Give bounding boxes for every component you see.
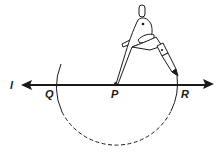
arc-solid-right <box>171 76 177 111</box>
arc-solid-left <box>57 64 62 112</box>
label-p: P <box>111 88 119 100</box>
label-r: R <box>181 88 189 100</box>
construction-diagram: l Q P R <box>0 0 220 155</box>
circle-arc <box>57 64 178 145</box>
label-line-l: l <box>10 79 14 91</box>
arc-dashed-bottom <box>62 111 171 145</box>
label-q: Q <box>45 88 54 100</box>
compass-icon <box>116 5 178 84</box>
